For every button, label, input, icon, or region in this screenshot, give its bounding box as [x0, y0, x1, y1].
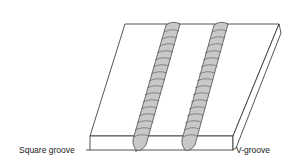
plate-front-face [90, 136, 233, 150]
plate-top-face [90, 24, 279, 136]
plate [86, 24, 281, 150]
v-groove-label: V-groove [236, 146, 270, 155]
welded-plate-diagram [0, 0, 294, 165]
square-groove-label: Square groove [19, 146, 75, 155]
